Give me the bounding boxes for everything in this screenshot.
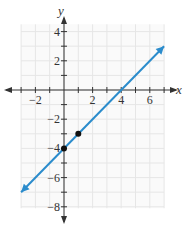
data-point: [61, 145, 67, 151]
data-point: [75, 131, 81, 137]
x-axis-left-arrow-icon: [4, 87, 12, 93]
x-tick-label: −2: [29, 93, 42, 107]
x-tick-label: 4: [118, 93, 124, 107]
y-tick-label: −6: [47, 171, 60, 185]
y-axis-down-arrow-icon: [61, 216, 67, 224]
y-tick-label: −2: [47, 112, 60, 126]
x-axis-label: x: [175, 82, 182, 97]
y-tick-label: 4: [54, 25, 60, 39]
x-tick-label: 2: [90, 93, 96, 107]
grid: [21, 24, 164, 208]
y-tick-label: 2: [54, 54, 60, 68]
coordinate-plane: −224642−2−4−6−8 x y: [0, 0, 188, 234]
x-tick-label: 6: [147, 93, 153, 107]
y-tick-label: −8: [47, 200, 60, 214]
y-axis-label: y: [56, 3, 64, 18]
